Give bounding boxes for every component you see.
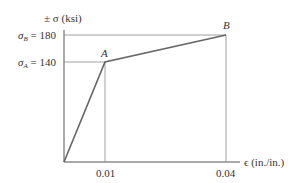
x-axis-label: ϵ (in./in.) bbox=[244, 156, 285, 169]
y-axis-label: ± σ (ksi) bbox=[44, 12, 82, 25]
point-b-label: B bbox=[223, 19, 230, 31]
sigma-b-label: σB = 180 bbox=[18, 29, 56, 43]
stress-strain-curve bbox=[64, 35, 226, 162]
stress-strain-diagram: ± σ (ksi) σB = 180 σA = 140 A B 0.01 0.0… bbox=[0, 0, 296, 183]
point-a-label: A bbox=[100, 47, 108, 59]
x-tick-004: 0.04 bbox=[216, 167, 236, 179]
x-tick-001: 0.01 bbox=[96, 167, 115, 179]
sigma-a-label: σA = 140 bbox=[18, 56, 56, 70]
